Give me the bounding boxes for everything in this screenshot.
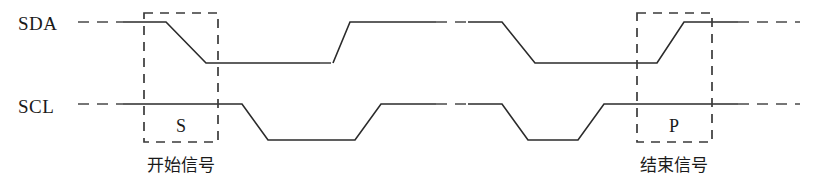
start-condition-caption: 开始信号 [147,155,215,175]
sda-signal-group: SDA [18,13,800,63]
sda-falling-pulse [468,22,626,63]
scl-axis-label: SCL [18,96,54,117]
sda-axis-label: SDA [18,13,58,34]
i2c-timing-diagram: SDA SCL S 开始信号 P [0,0,817,188]
sda-rising-pulse [333,22,436,63]
scl-solid-segment-2 [468,104,738,140]
sda-solid-segment-1 [123,22,320,63]
scl-solid-segment-1 [123,104,436,140]
stop-condition-symbol: P [669,116,679,136]
start-condition-symbol: S [176,116,186,136]
scl-signal-group: SCL [18,96,800,140]
stop-condition-caption: 结束信号 [640,155,708,175]
sda-stop-rise [626,22,738,63]
waveform-canvas: SDA SCL S 开始信号 P [0,0,817,188]
